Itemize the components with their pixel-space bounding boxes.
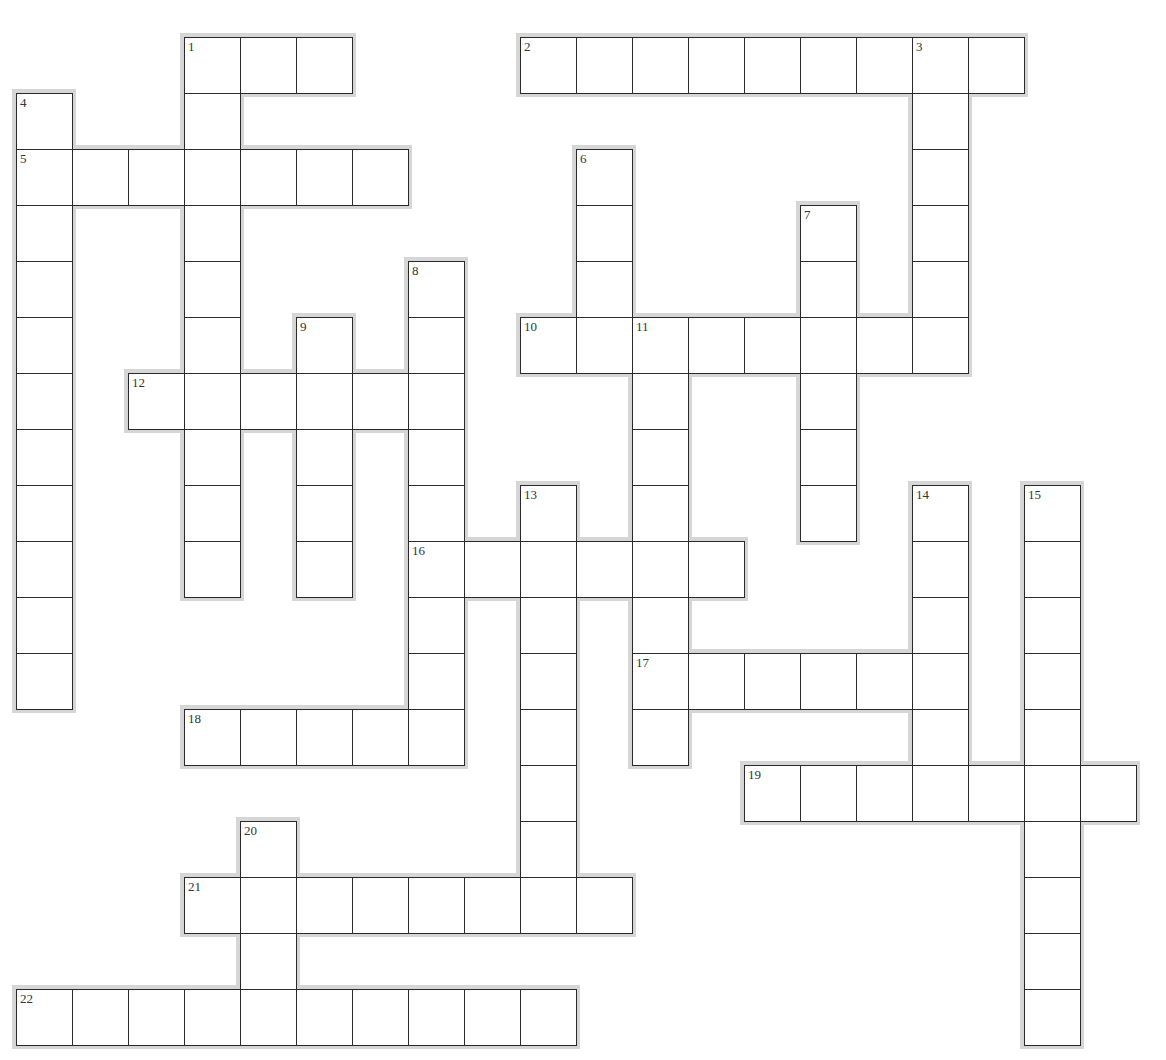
crossword-cell[interactable] bbox=[352, 373, 409, 430]
crossword-cell[interactable] bbox=[352, 709, 409, 766]
crossword-cell[interactable] bbox=[856, 653, 913, 710]
crossword-cell[interactable] bbox=[912, 765, 969, 822]
cell-letter-input[interactable] bbox=[689, 542, 744, 597]
crossword-cell[interactable] bbox=[856, 317, 913, 374]
cell-letter-input[interactable] bbox=[297, 150, 352, 205]
crossword-cell[interactable] bbox=[576, 317, 633, 374]
cell-letter-input[interactable] bbox=[913, 94, 968, 149]
cell-letter-input[interactable] bbox=[409, 654, 464, 709]
crossword-cell[interactable] bbox=[912, 597, 969, 654]
crossword-cell[interactable] bbox=[800, 429, 857, 486]
crossword-cell[interactable] bbox=[408, 877, 465, 934]
cell-letter-input[interactable] bbox=[521, 710, 576, 765]
crossword-cell[interactable] bbox=[184, 541, 241, 598]
crossword-cell[interactable] bbox=[800, 261, 857, 318]
crossword-cell[interactable]: 9 bbox=[296, 317, 353, 374]
cell-letter-input[interactable] bbox=[17, 318, 72, 373]
crossword-cell[interactable] bbox=[184, 485, 241, 542]
cell-letter-input[interactable] bbox=[633, 374, 688, 429]
cell-letter-input[interactable] bbox=[465, 990, 520, 1045]
crossword-cell[interactable]: 19 bbox=[744, 765, 801, 822]
crossword-cell[interactable] bbox=[800, 653, 857, 710]
crossword-cell[interactable]: 12 bbox=[128, 373, 185, 430]
crossword-cell[interactable] bbox=[240, 709, 297, 766]
crossword-cell[interactable] bbox=[520, 989, 577, 1046]
cell-letter-input[interactable] bbox=[521, 654, 576, 709]
cell-letter-input[interactable] bbox=[913, 598, 968, 653]
cell-letter-input[interactable] bbox=[409, 542, 464, 597]
cell-letter-input[interactable] bbox=[801, 654, 856, 709]
crossword-cell[interactable] bbox=[1024, 653, 1081, 710]
cell-letter-input[interactable] bbox=[409, 710, 464, 765]
crossword-cell[interactable] bbox=[520, 877, 577, 934]
crossword-cell[interactable] bbox=[688, 541, 745, 598]
crossword-cell[interactable] bbox=[240, 149, 297, 206]
crossword-cell[interactable] bbox=[744, 653, 801, 710]
cell-letter-input[interactable] bbox=[17, 150, 72, 205]
crossword-cell[interactable]: 20 bbox=[240, 821, 297, 878]
crossword-cell[interactable] bbox=[240, 373, 297, 430]
crossword-cell[interactable] bbox=[800, 765, 857, 822]
cell-letter-input[interactable] bbox=[745, 654, 800, 709]
cell-letter-input[interactable] bbox=[409, 430, 464, 485]
crossword-cell[interactable] bbox=[128, 989, 185, 1046]
cell-letter-input[interactable] bbox=[521, 486, 576, 541]
crossword-cell[interactable] bbox=[576, 37, 633, 94]
crossword-cell[interactable] bbox=[912, 261, 969, 318]
cell-letter-input[interactable] bbox=[409, 990, 464, 1045]
cell-letter-input[interactable] bbox=[577, 878, 632, 933]
crossword-cell[interactable]: 15 bbox=[1024, 485, 1081, 542]
cell-letter-input[interactable] bbox=[17, 94, 72, 149]
crossword-cell[interactable] bbox=[184, 149, 241, 206]
crossword-cell[interactable]: 1 bbox=[184, 37, 241, 94]
cell-letter-input[interactable] bbox=[801, 206, 856, 261]
crossword-cell[interactable] bbox=[520, 765, 577, 822]
crossword-cell[interactable] bbox=[240, 989, 297, 1046]
cell-letter-input[interactable] bbox=[1025, 766, 1080, 821]
crossword-cell[interactable] bbox=[912, 541, 969, 598]
cell-letter-input[interactable] bbox=[521, 766, 576, 821]
cell-letter-input[interactable] bbox=[577, 206, 632, 261]
cell-letter-input[interactable] bbox=[969, 766, 1024, 821]
cell-letter-input[interactable] bbox=[857, 38, 912, 93]
cell-letter-input[interactable] bbox=[129, 374, 184, 429]
crossword-cell[interactable] bbox=[16, 541, 73, 598]
cell-letter-input[interactable] bbox=[185, 374, 240, 429]
cell-letter-input[interactable] bbox=[857, 654, 912, 709]
cell-letter-input[interactable] bbox=[689, 318, 744, 373]
cell-letter-input[interactable] bbox=[409, 598, 464, 653]
crossword-cell[interactable] bbox=[800, 37, 857, 94]
crossword-cell[interactable] bbox=[912, 653, 969, 710]
cell-letter-input[interactable] bbox=[17, 598, 72, 653]
cell-letter-input[interactable] bbox=[913, 318, 968, 373]
crossword-cell[interactable] bbox=[296, 37, 353, 94]
crossword-cell[interactable] bbox=[912, 149, 969, 206]
cell-letter-input[interactable] bbox=[409, 318, 464, 373]
crossword-cell[interactable] bbox=[296, 429, 353, 486]
cell-letter-input[interactable] bbox=[1025, 542, 1080, 597]
cell-letter-input[interactable] bbox=[913, 206, 968, 261]
crossword-cell[interactable] bbox=[16, 597, 73, 654]
crossword-cell[interactable] bbox=[968, 765, 1025, 822]
crossword-cell[interactable] bbox=[912, 205, 969, 262]
cell-letter-input[interactable] bbox=[17, 486, 72, 541]
cell-letter-input[interactable] bbox=[801, 318, 856, 373]
crossword-cell[interactable] bbox=[632, 429, 689, 486]
cell-letter-input[interactable] bbox=[241, 38, 296, 93]
crossword-cell[interactable] bbox=[296, 541, 353, 598]
cell-letter-input[interactable] bbox=[913, 710, 968, 765]
cell-letter-input[interactable] bbox=[17, 990, 72, 1045]
crossword-cell[interactable] bbox=[408, 989, 465, 1046]
crossword-cell[interactable] bbox=[72, 989, 129, 1046]
cell-letter-input[interactable] bbox=[185, 38, 240, 93]
crossword-cell[interactable] bbox=[240, 37, 297, 94]
crossword-cell[interactable]: 4 bbox=[16, 93, 73, 150]
crossword-cell[interactable] bbox=[1024, 821, 1081, 878]
cell-letter-input[interactable] bbox=[521, 822, 576, 877]
crossword-cell[interactable] bbox=[1024, 765, 1081, 822]
cell-letter-input[interactable] bbox=[185, 318, 240, 373]
cell-letter-input[interactable] bbox=[297, 486, 352, 541]
cell-letter-input[interactable] bbox=[969, 38, 1024, 93]
cell-letter-input[interactable] bbox=[633, 710, 688, 765]
cell-letter-input[interactable] bbox=[521, 542, 576, 597]
